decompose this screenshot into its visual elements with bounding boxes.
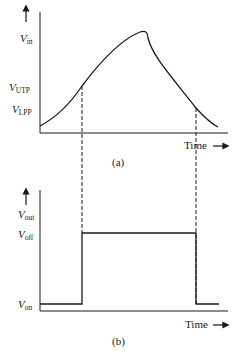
caption-b: (b) [112,335,125,348]
von-label: Von [18,298,32,312]
caption-a: (a) [112,156,125,169]
time-label-a: Time [184,139,207,151]
voff-label: Voff [18,228,34,242]
vutp-label: VUTP [9,81,30,95]
vout-label: Vout [18,208,35,222]
schmitt-trigger-diagram: Vin VUTP VLPP Time (a) Vout Voff Von Tim… [0,0,240,359]
vin-label: Vin [20,32,33,46]
time-label-b: Time [185,318,208,330]
panel-a: Vin VUTP VLPP Time (a) [9,8,228,304]
vout-waveform [40,233,219,304]
vin-curve [40,31,218,127]
vlpp-label: VLPP [12,103,32,117]
